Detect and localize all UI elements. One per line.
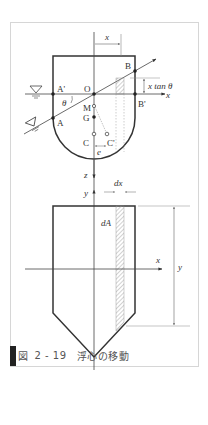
label-B-prime: B' (138, 99, 146, 109)
label-A: A (57, 118, 64, 128)
figure-caption: 図 2 - 19 浮心の移動 (18, 347, 129, 363)
line-M-C-prime (95, 107, 106, 132)
point-A (51, 116, 55, 120)
label-theta: θ (62, 98, 67, 108)
hatched-strip-top (116, 78, 124, 94)
label-e: e (97, 147, 101, 157)
theta-arc (71, 96, 72, 103)
point-G (92, 115, 96, 119)
label-x-dim: x (104, 32, 109, 42)
bottom-view: y x dx dA y (25, 178, 190, 370)
label-O: O (84, 84, 91, 94)
label-A-prime: A' (57, 84, 65, 94)
caption-title: 浮心の移動 (77, 348, 130, 363)
label-dA: dA (101, 218, 112, 228)
caption-label: 図 (18, 348, 29, 363)
point-A-prime (51, 92, 55, 96)
point-B-prime (133, 92, 137, 96)
label-B: B (125, 61, 131, 71)
label-C-prime: C' (107, 138, 115, 148)
label-y-axis: y (83, 188, 88, 198)
label-x-axis-bottom: x (155, 255, 160, 265)
label-G: G (83, 113, 90, 123)
water-level-upright-icon (30, 86, 42, 98)
label-x-axis: x (165, 90, 170, 100)
label-x-tan-theta: x tan θ (147, 81, 173, 91)
point-O (92, 92, 96, 96)
caption-number: 2 - 19 (35, 350, 67, 361)
top-view: x x x tan θ e A' O B B' A M (24, 32, 173, 190)
label-z-axis: z (83, 170, 88, 180)
hatched-strip-dA (116, 206, 124, 331)
point-C (92, 132, 96, 136)
point-B (133, 69, 137, 73)
label-dx: dx (114, 178, 123, 188)
figure-frame (11, 23, 199, 367)
label-C: C (83, 138, 89, 148)
caption-marker (10, 346, 16, 366)
point-C-prime (105, 132, 109, 136)
label-M: M (83, 103, 91, 113)
label-y-dim: y (177, 262, 182, 272)
